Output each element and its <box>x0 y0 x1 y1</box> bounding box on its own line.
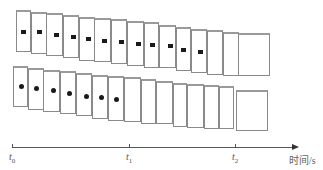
frame-card <box>223 32 239 76</box>
axis-tick-label: t0 <box>9 151 15 165</box>
dot-marker-icon <box>84 94 89 99</box>
square-marker-icon <box>21 30 26 34</box>
square-marker-icon <box>181 48 186 52</box>
frame-sequence-diagram: t0t1t2 时间/s <box>0 0 323 170</box>
axis-tick <box>235 144 236 148</box>
dot-marker-icon <box>19 84 24 89</box>
frame-card <box>141 79 156 124</box>
square-marker-icon <box>71 35 76 39</box>
frame-card <box>173 83 187 127</box>
square-marker-icon <box>168 44 173 48</box>
dot-marker-icon <box>51 88 56 93</box>
axis-tick-label: t2 <box>232 151 238 165</box>
axis-tick-label: t1 <box>126 151 132 165</box>
dot-marker-icon <box>114 97 119 102</box>
dot-marker-icon <box>99 95 104 100</box>
dot-marker-icon <box>67 91 72 96</box>
square-marker-icon <box>198 50 203 54</box>
time-axis-line <box>12 147 292 148</box>
frame-card <box>156 81 173 124</box>
axis-tick <box>129 144 130 148</box>
axis-tick <box>12 144 13 148</box>
frame-card <box>207 30 223 75</box>
frame-card <box>204 85 219 129</box>
frame-card <box>238 33 270 76</box>
square-marker-icon <box>102 39 107 43</box>
frame-card <box>124 77 141 122</box>
frame-card <box>219 86 234 129</box>
arrow-right-icon <box>292 144 299 150</box>
time-axis-label: 时间/s <box>289 152 316 167</box>
dot-marker-icon <box>34 86 39 91</box>
square-marker-icon <box>136 42 141 46</box>
square-marker-icon <box>54 33 59 37</box>
frame-card <box>236 90 268 131</box>
square-marker-icon <box>86 37 91 41</box>
square-marker-icon <box>119 40 124 44</box>
frame-card <box>187 84 204 128</box>
square-marker-icon <box>37 30 42 34</box>
square-marker-icon <box>150 43 155 47</box>
